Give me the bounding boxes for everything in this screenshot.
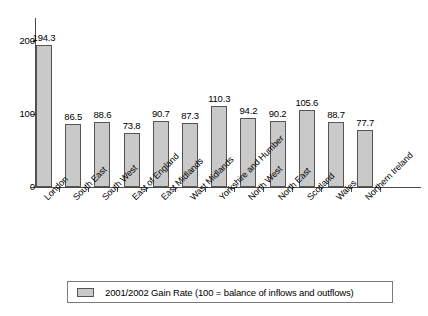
bar-value-label: 94.2 bbox=[232, 106, 264, 116]
bar-value-label: 90.2 bbox=[262, 109, 294, 119]
y-tick-label: 100 bbox=[9, 109, 35, 119]
bar-value-label: 194.3 bbox=[28, 33, 60, 43]
bar bbox=[36, 45, 52, 187]
bar-value-label: 87.3 bbox=[174, 111, 206, 121]
y-tick-label: 0 bbox=[9, 182, 35, 192]
series-color-swatch bbox=[77, 288, 94, 297]
bar-chart: 2001000 194.386.588.673.890.787.3110.394… bbox=[0, 0, 428, 316]
legend-label: 2001/2002 Gain Rate (100 = balance of in… bbox=[105, 287, 354, 298]
bar-value-label: 88.7 bbox=[320, 110, 352, 120]
bar-value-label: 110.3 bbox=[203, 94, 235, 104]
bar-value-label: 88.6 bbox=[86, 110, 118, 120]
chart-legend: 2001/2002 Gain Rate (100 = balance of in… bbox=[67, 281, 393, 303]
bar-value-label: 105.6 bbox=[291, 98, 323, 108]
bar-value-label: 86.5 bbox=[57, 112, 89, 122]
y-tick-label-wrap: 100 bbox=[0, 109, 35, 119]
plot-area: 2001000 194.386.588.673.890.787.3110.394… bbox=[0, 0, 428, 316]
bar-value-label: 77.7 bbox=[349, 118, 381, 128]
bar-value-label: 90.7 bbox=[145, 109, 177, 119]
bar bbox=[65, 124, 81, 187]
y-tick-label-wrap: 0 bbox=[0, 182, 35, 192]
bar-value-label: 73.8 bbox=[116, 121, 148, 131]
bar bbox=[357, 130, 373, 187]
